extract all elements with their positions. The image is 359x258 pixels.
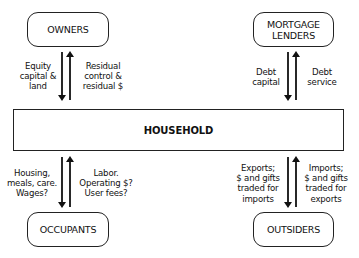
flow-label-debt-capital: Debt capital <box>248 67 284 87</box>
household-label: HOUSEHOLD <box>144 125 214 136</box>
owners-label: OWNERS <box>47 24 88 35</box>
household-box: HOUSEHOLD <box>13 109 344 151</box>
flow-label-residual-control: Residual control & residual $ <box>76 61 130 92</box>
flow-label-housing-meals: Housing, meals, care. Wages? <box>4 168 60 199</box>
flow-label-debt-service: Debt service <box>304 67 340 87</box>
mortgage-lenders-label-line1: MORTGAGE <box>267 19 320 30</box>
flow-label-equity-capital: Equity capital & land <box>14 61 62 92</box>
outsiders-label: OUTSIDERS <box>267 224 320 235</box>
occupants-label: OCCUPANTS <box>40 224 96 235</box>
flow-label-exports: Exports; $ and gifts traded for imports <box>232 163 284 204</box>
owners-node: OWNERS <box>27 12 109 47</box>
flow-label-labor-operating: Labor. Operating $? User fees? <box>76 168 136 199</box>
mortgage-lenders-label-line2: LENDERS <box>272 30 315 41</box>
outsiders-node: OUTSIDERS <box>253 212 334 247</box>
mortgage-lenders-node: MORTGAGE LENDERS <box>253 12 334 47</box>
flow-label-imports: Imports; $ and gifts traded for exports <box>300 163 352 204</box>
occupants-node: OCCUPANTS <box>27 212 109 247</box>
